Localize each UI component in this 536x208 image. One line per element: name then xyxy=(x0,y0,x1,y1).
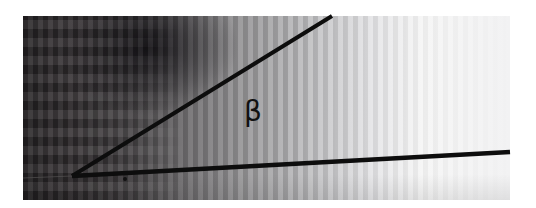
upper-angle-line xyxy=(72,16,332,176)
lower-angle-line xyxy=(72,152,510,176)
baseline-faint xyxy=(23,176,72,178)
angle-lines xyxy=(0,0,536,208)
marker-dot xyxy=(123,177,127,181)
angle-beta-label: β xyxy=(244,98,262,126)
